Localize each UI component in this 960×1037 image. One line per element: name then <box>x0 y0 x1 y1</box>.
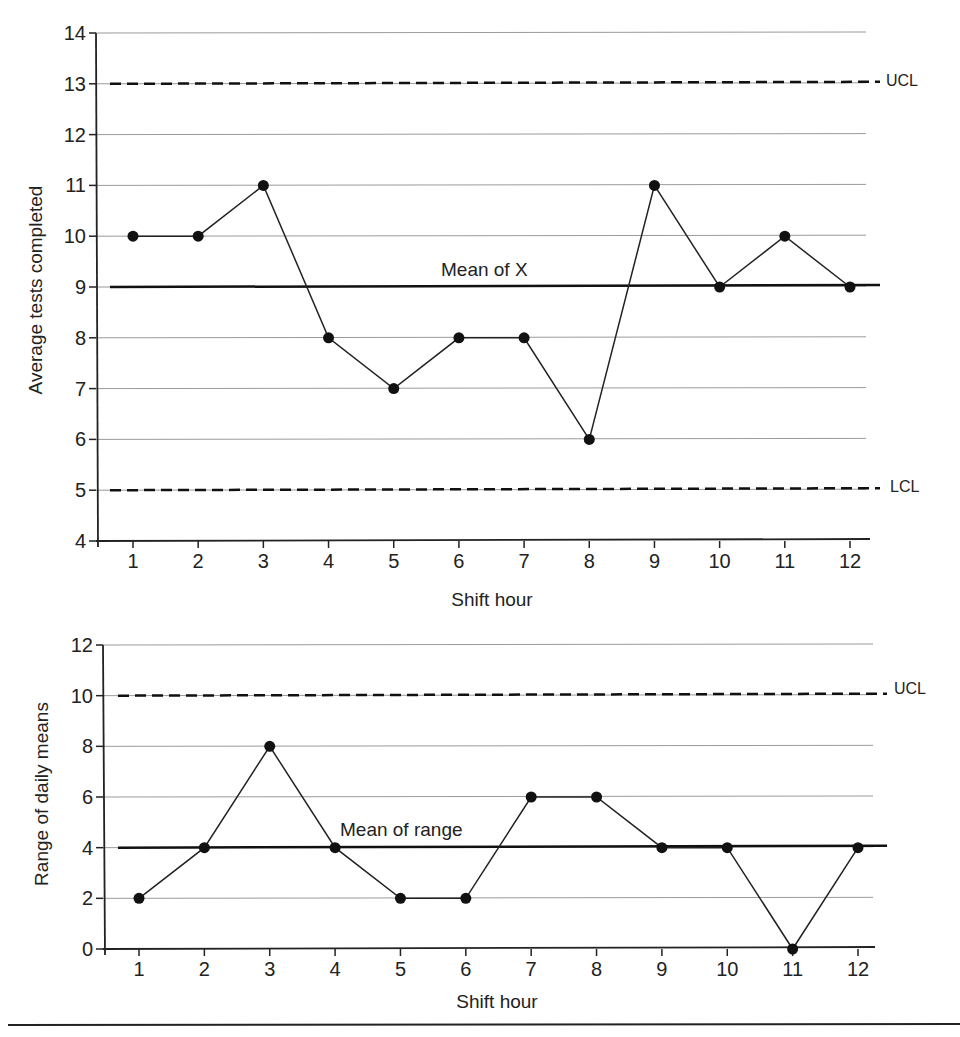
data-point <box>264 741 275 752</box>
data-point <box>845 282 856 293</box>
x-tick-label: 3 <box>264 958 275 980</box>
gridline <box>103 745 873 746</box>
data-point <box>722 842 733 853</box>
data-point <box>134 893 145 904</box>
y-tick-label: 4 <box>82 837 93 859</box>
data-point <box>649 180 660 191</box>
gridline <box>96 438 866 439</box>
data-point <box>193 231 204 242</box>
bottom-mean-label: Mean of range <box>340 819 463 840</box>
control-charts: 4567891011121314123456789101112 02468101… <box>0 0 960 1037</box>
x-tick-label: 8 <box>584 550 595 572</box>
bottom-y-axis-label: Range of daily means <box>31 702 52 886</box>
top-x-axis-label: Shift hour <box>451 589 533 610</box>
x-tick-label: 7 <box>519 550 530 572</box>
x-tick-label: 6 <box>453 550 464 572</box>
x-tick-label: 3 <box>258 550 269 572</box>
bottom-x-axis-label: Shift hour <box>456 991 538 1012</box>
y-tick-label: 4 <box>75 530 86 552</box>
data-point <box>584 434 595 445</box>
x-tick-label: 11 <box>774 550 795 572</box>
top-lcl-label: LCL <box>890 478 919 495</box>
x-tick-label: 5 <box>388 550 399 572</box>
data-point <box>779 231 790 242</box>
mean-of-range-line <box>118 846 887 848</box>
y-tick-label: 6 <box>75 428 86 450</box>
x-tick-label: 1 <box>133 958 144 980</box>
x-tick-label: 2 <box>199 958 210 980</box>
data-point <box>526 792 537 803</box>
gridline <box>96 184 866 185</box>
gridline <box>103 644 873 645</box>
y-axis <box>96 33 98 547</box>
y-tick-label: 14 <box>64 22 86 44</box>
x-tick-label: 9 <box>656 958 667 980</box>
y-axis <box>103 645 105 955</box>
gridline <box>96 134 866 135</box>
mean-of-x-line <box>110 285 880 287</box>
gridline <box>96 388 866 389</box>
data-point <box>591 792 602 803</box>
data-point <box>199 842 210 853</box>
data-point <box>453 332 464 343</box>
gridline <box>103 796 873 797</box>
bottom-ucl-label: UCL <box>894 680 926 697</box>
y-tick-label: 7 <box>75 378 86 400</box>
y-tick-label: 12 <box>64 124 86 146</box>
y-tick-label: 8 <box>82 735 93 757</box>
top-y-axis-label: Average tests completed <box>25 186 46 395</box>
top-ucl-label: UCL <box>886 72 918 89</box>
data-point <box>128 231 139 242</box>
x-tick-label: 10 <box>709 550 731 572</box>
data-point <box>323 332 334 343</box>
data-point <box>787 944 798 955</box>
x-tick-label: 4 <box>330 958 341 980</box>
x-axis <box>96 539 870 541</box>
top-mean-label: Mean of X <box>441 259 528 280</box>
x-tick-label: 8 <box>591 958 602 980</box>
data-point <box>519 332 530 343</box>
x-tick-label: 7 <box>526 958 537 980</box>
x-tick-label: 10 <box>716 958 738 980</box>
data-point <box>853 842 864 853</box>
y-tick-label: 12 <box>71 634 93 656</box>
x-tick-label: 5 <box>395 958 406 980</box>
y-tick-label: 11 <box>65 174 86 196</box>
data-point <box>330 842 341 853</box>
data-point <box>714 282 725 293</box>
gridline <box>96 83 866 84</box>
x-tick-label: 1 <box>127 550 138 572</box>
x-tick-label: 12 <box>839 550 861 572</box>
data-point <box>258 180 269 191</box>
x-tick-label: 9 <box>649 550 660 572</box>
xbar-chart: 4567891011121314123456789101112 <box>64 22 880 572</box>
x-tick-label: 11 <box>782 958 803 980</box>
gridline <box>103 897 873 898</box>
x-axis <box>103 947 875 949</box>
x-tick-label: 2 <box>193 550 204 572</box>
y-tick-label: 6 <box>82 786 93 808</box>
y-tick-label: 8 <box>75 327 86 349</box>
gridline <box>96 489 866 490</box>
x-tick-label: 6 <box>460 958 471 980</box>
y-tick-label: 10 <box>64 225 86 247</box>
gridline <box>96 32 866 33</box>
data-point <box>460 893 471 904</box>
x-tick-label: 4 <box>323 550 334 572</box>
bottom-divider <box>8 1024 960 1025</box>
y-tick-label: 5 <box>75 479 86 501</box>
gridline <box>96 235 866 236</box>
y-tick-label: 0 <box>82 938 93 960</box>
data-point <box>656 842 667 853</box>
range-chart: 024681012123456789101112 <box>71 634 887 980</box>
x-tick-label: 12 <box>847 958 869 980</box>
y-tick-label: 2 <box>82 887 93 909</box>
y-tick-label: 10 <box>71 685 93 707</box>
y-tick-label: 13 <box>64 73 86 95</box>
data-line <box>133 185 850 439</box>
y-tick-label: 9 <box>75 276 86 298</box>
data-point <box>388 383 399 394</box>
data-point <box>395 893 406 904</box>
